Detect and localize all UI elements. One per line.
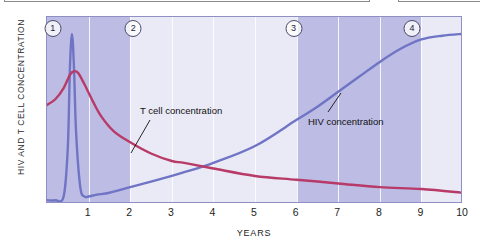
- x-tick-1: 1: [85, 206, 91, 218]
- x-axis-label: YEARS: [46, 228, 462, 238]
- chart-container: HIV AND T CELL CONCENTRATION 12345678910…: [0, 0, 480, 250]
- x-tick-2: 2: [126, 206, 132, 218]
- x-tick-7: 7: [334, 206, 340, 218]
- x-tick-5: 5: [251, 206, 257, 218]
- x-tick-10: 10: [456, 206, 468, 218]
- curve-layer: [47, 17, 462, 203]
- x-tick-8: 8: [376, 206, 382, 218]
- tcell-annotation: T cell concentration: [140, 105, 222, 116]
- series-line-tcell: [47, 71, 462, 193]
- x-tick-4: 4: [209, 206, 215, 218]
- x-tick-9: 9: [417, 206, 423, 218]
- phase-marker-4[interactable]: 4: [404, 20, 421, 37]
- x-tick-3: 3: [168, 206, 174, 218]
- phase-marker-3[interactable]: 3: [285, 20, 302, 37]
- caption-box-1: [4, 0, 370, 2]
- x-tick-6: 6: [293, 206, 299, 218]
- hiv-annotation: HIV concentration: [308, 116, 384, 127]
- caption-box-2: [398, 0, 480, 2]
- y-axis-label: HIV AND T CELL CONCENTRATION: [16, 2, 26, 192]
- phase-marker-2[interactable]: 2: [125, 20, 142, 37]
- phase-marker-1[interactable]: 1: [44, 20, 61, 37]
- plot-area: [46, 16, 462, 203]
